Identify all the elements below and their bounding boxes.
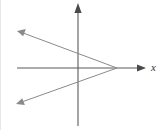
lower-ray-line	[23, 68, 117, 102]
coordinate-plane-figure: x	[0, 0, 165, 130]
x-axis-arrowhead-icon	[137, 65, 146, 72]
y-axis-arrowhead-icon	[74, 3, 81, 13]
upper-ray-arrowhead-icon	[17, 29, 26, 36]
upper-ray-line	[24, 33, 117, 68]
x-axis-label: x	[150, 61, 156, 73]
coordinate-plane-svg: x	[0, 0, 165, 130]
